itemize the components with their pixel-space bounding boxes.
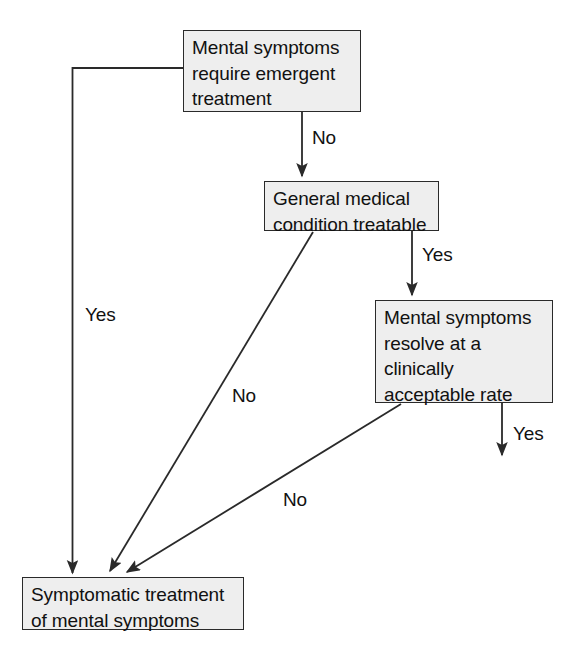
edge-label-emergent-yes: Yes bbox=[85, 305, 116, 324]
edge-label-gmc-no: No bbox=[232, 386, 256, 405]
edge-label-resolve-yes: Yes bbox=[513, 424, 544, 443]
edge-label-emergent-no: No bbox=[312, 128, 336, 147]
edge-label-gmc-yes: Yes bbox=[422, 245, 453, 264]
flowchart-canvas: Mental symptoms require emergent treatme… bbox=[0, 0, 584, 656]
node-emergent-treatment: Mental symptoms require emergent treatme… bbox=[183, 30, 361, 112]
edge-label-resolve-no: No bbox=[283, 490, 307, 509]
node-symptoms-resolve-rate: Mental symptoms resolve at a clinically … bbox=[375, 300, 553, 403]
node-symptomatic-treatment: Symptomatic treatment of mental symptoms bbox=[22, 577, 244, 630]
edge-resolve-no bbox=[127, 404, 401, 572]
node-general-medical-condition: General medical condition treatable bbox=[264, 181, 439, 231]
